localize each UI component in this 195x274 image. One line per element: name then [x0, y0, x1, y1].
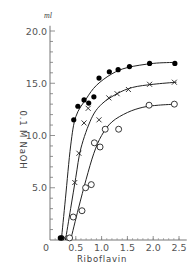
open-circle-marker: [67, 235, 73, 241]
filled-circle-marker: [107, 69, 112, 74]
open-circle-marker: [79, 208, 85, 214]
y-axis-label: 0.1 M NaOH: [18, 111, 28, 170]
filled-circle-marker: [91, 94, 96, 99]
fit-curve-2: [71, 104, 177, 240]
fit-curves: [61, 62, 176, 240]
filled-circle-marker: [96, 75, 101, 80]
x-tick-label: 0.5: [68, 242, 83, 253]
x-tick-label: 1.5: [120, 242, 135, 253]
filled-circle-marker: [127, 64, 132, 69]
filled-circle-marker: [81, 97, 86, 102]
filled-circle-marker: [71, 117, 76, 122]
open-circle-marker: [70, 214, 76, 220]
open-circle-marker: [91, 140, 97, 146]
cross-marker: [97, 117, 102, 122]
filled-circle-marker: [147, 61, 152, 66]
filled-circle-marker: [172, 61, 177, 66]
open-circle-marker: [102, 126, 108, 132]
cross-marker: [86, 106, 91, 111]
open-circle-marker: [171, 101, 177, 107]
filled-circle-marker: [59, 235, 64, 240]
cross-marker: [115, 91, 120, 96]
x-axis-label: Riboflavin: [77, 254, 127, 264]
open-circle-marker: [146, 102, 152, 108]
fit-curve-0: [61, 62, 176, 240]
y-tick-label: 10.0: [26, 130, 47, 141]
y-tick-label: 15.0: [26, 78, 47, 89]
x-tick-label: 0: [43, 242, 49, 253]
x-tick-label: 2.0: [146, 242, 161, 253]
filled-circle-marker: [116, 67, 121, 72]
open-circle-marker: [116, 126, 122, 132]
y-tick-label: 20.0: [26, 26, 47, 37]
y-tick-label: 5.0: [32, 182, 47, 193]
data-markers: [58, 61, 178, 241]
x-tick-label: 2.5: [171, 242, 186, 253]
titration-chart: 5.010.015.020.000.51.01.52.02.5 ml Ribof…: [0, 0, 195, 274]
filled-circle-marker: [75, 104, 80, 109]
open-circle-marker: [88, 182, 94, 188]
x-tick-label: 1.0: [94, 242, 109, 253]
cross-marker: [82, 120, 87, 125]
fit-curve-1: [65, 82, 176, 240]
filled-circle-marker: [86, 101, 91, 106]
axes: 5.010.015.020.000.51.01.52.02.5: [26, 26, 187, 254]
open-circle-marker: [83, 185, 89, 191]
open-circle-marker: [97, 144, 103, 150]
y-unit-label: ml: [44, 11, 53, 20]
